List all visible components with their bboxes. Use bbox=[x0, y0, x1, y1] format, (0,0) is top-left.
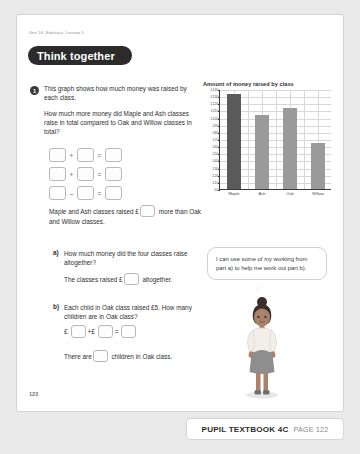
answer-box[interactable] bbox=[71, 325, 86, 338]
chart-bar bbox=[311, 143, 326, 189]
student-character-illustration bbox=[235, 287, 289, 399]
answer-box[interactable] bbox=[49, 167, 66, 181]
answer-box[interactable] bbox=[77, 186, 94, 200]
chart-y-tick-label: £110 bbox=[211, 109, 219, 113]
footer-title: PUPIL TEXTBOOK 4C bbox=[202, 425, 289, 434]
page-number: 122 bbox=[29, 391, 38, 397]
question-line-1: This graph shows how much money was rais… bbox=[44, 84, 199, 102]
chart-y-tick-label: £140 bbox=[211, 88, 219, 92]
speech-bubble-text: I can use some of my working from part a… bbox=[216, 256, 307, 271]
equals-sign: = bbox=[115, 328, 119, 335]
chart-y-tick-label: £130 bbox=[211, 95, 219, 99]
part-b-text: Each child in Oak class raised £5. How m… bbox=[64, 303, 216, 321]
operator: – bbox=[66, 190, 77, 197]
answer-box[interactable] bbox=[121, 325, 136, 338]
part-a-label: a) bbox=[53, 249, 59, 256]
equation-row: – = bbox=[49, 186, 122, 200]
answer-box[interactable] bbox=[98, 325, 113, 338]
answer-prefix: The classes raised £ bbox=[64, 276, 123, 283]
chart-y-tick-label: £100 bbox=[211, 117, 219, 121]
chart-x-tick-label: Ash bbox=[258, 191, 265, 196]
part-b-label: b) bbox=[53, 303, 59, 310]
equals-sign: = bbox=[94, 190, 105, 197]
chart-vertical-gridline bbox=[276, 90, 277, 189]
equation-row: + = bbox=[49, 148, 122, 162]
chart-x-tick-label: Maple bbox=[228, 191, 239, 196]
operator: + bbox=[66, 152, 77, 159]
answer-suffix: altogether. bbox=[142, 276, 172, 283]
chart-y-tick-label: £10 bbox=[213, 181, 219, 185]
bar-chart: Amount of money raised by class £0£10£20… bbox=[203, 81, 333, 198]
speech-bubble: I can use some of my working from part a… bbox=[207, 247, 327, 280]
equation-row: + = bbox=[49, 167, 122, 181]
part-a-text: How much money did the four classes rais… bbox=[64, 249, 214, 267]
answer-box[interactable] bbox=[49, 186, 66, 200]
chart-plot-area: £0£10£20£30£40£50£60£70£80£90£100£110£12… bbox=[203, 90, 333, 198]
chart-y-tick-label: £0 bbox=[215, 188, 219, 192]
answer-box[interactable] bbox=[105, 167, 122, 181]
answer-box[interactable] bbox=[124, 273, 139, 285]
answer-box[interactable] bbox=[49, 148, 66, 162]
answer-box[interactable] bbox=[105, 148, 122, 162]
chart-vertical-gridline bbox=[304, 90, 305, 189]
chart-x-tick-label: Oak bbox=[286, 191, 294, 196]
part-b-answer-sentence: There are children in Oak class. bbox=[64, 350, 224, 362]
think-together-banner: Think together bbox=[28, 46, 132, 65]
answer-box[interactable] bbox=[140, 205, 155, 217]
chart-y-tick-label: £80 bbox=[213, 131, 219, 135]
answer-suffix: children in Oak class. bbox=[112, 353, 173, 360]
question-text: This graph shows how much money was rais… bbox=[44, 84, 199, 136]
banner-label: Think together bbox=[37, 50, 115, 62]
chart-y-tick-label: £30 bbox=[213, 167, 219, 171]
unit-lesson-label: Unit 14: Statistics, Lesson 5 bbox=[29, 30, 84, 35]
answer-box[interactable] bbox=[93, 350, 108, 362]
chart-y-tick-label: £120 bbox=[211, 102, 219, 106]
chart-title: Amount of money raised by class bbox=[203, 81, 333, 87]
chart-x-tick-label: Willow bbox=[312, 191, 324, 196]
comparison-sentence: Maple and Ash classes raised £ more than… bbox=[49, 205, 209, 226]
answer-box[interactable] bbox=[77, 167, 94, 181]
chart-bar bbox=[227, 94, 242, 189]
answer-prefix: There are bbox=[64, 353, 92, 360]
answer-box[interactable] bbox=[77, 148, 94, 162]
chart-y-tick-label: £40 bbox=[213, 159, 219, 163]
footer-banner: PUPIL TEXTBOOK 4C PAGE 122 bbox=[186, 418, 344, 440]
chart-y-tick-label: £90 bbox=[213, 124, 219, 128]
question-number-badge: 1 bbox=[30, 86, 39, 95]
currency-symbol: £ bbox=[91, 328, 95, 335]
equals-sign: = bbox=[94, 152, 105, 159]
part-b-equation: £ + £ = bbox=[64, 325, 138, 338]
chart-y-tick-label: £60 bbox=[213, 145, 219, 149]
currency-symbol: £ bbox=[64, 328, 68, 335]
answer-box[interactable] bbox=[105, 186, 122, 200]
footer-page-label: PAGE 122 bbox=[293, 425, 328, 434]
sentence-prefix: Maple and Ash classes raised £ bbox=[49, 208, 139, 215]
chart-y-tick-label: £20 bbox=[213, 174, 219, 178]
chart-axes: £0£10£20£30£40£50£60£70£80£90£100£110£12… bbox=[219, 90, 331, 190]
operator: + bbox=[66, 171, 77, 178]
part-a-answer-sentence: The classes raised £ altogether. bbox=[64, 273, 224, 285]
chart-y-tick-label: £50 bbox=[213, 152, 219, 156]
chart-bar bbox=[283, 108, 298, 189]
equals-sign: = bbox=[94, 171, 105, 178]
chart-bar bbox=[255, 115, 270, 189]
textbook-page: Unit 14: Statistics, Lesson 5 Think toge… bbox=[16, 14, 344, 412]
chart-vertical-gridline bbox=[248, 90, 249, 189]
chart-y-tick-label: £70 bbox=[213, 138, 219, 142]
equation-rows: + = + = – = bbox=[49, 148, 122, 205]
question-line-2: How much more money did Maple and Ash cl… bbox=[44, 109, 199, 136]
